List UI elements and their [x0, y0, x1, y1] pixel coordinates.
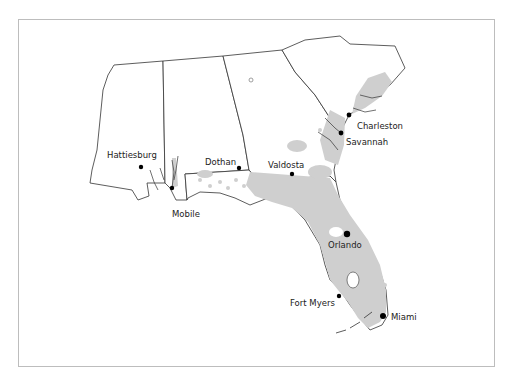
city-dot-hattiesburg — [139, 165, 143, 169]
city-label-mobile: Mobile — [172, 209, 200, 219]
city-label-fort-myers: Fort Myers — [290, 298, 335, 308]
isolated-record-marker — [249, 78, 253, 82]
range-gap — [329, 227, 343, 237]
city-dot-mobile — [170, 186, 174, 190]
city-label-savannah: Savannah — [346, 137, 388, 147]
range-patch — [197, 170, 213, 178]
lake-okeechobee — [347, 272, 359, 288]
city-dot-orlando — [344, 231, 350, 237]
city-dot-fort-myers — [337, 294, 341, 298]
city-dot-miami — [380, 313, 386, 319]
city-dot-charleston — [347, 113, 352, 118]
city-label-miami: Miami — [391, 312, 417, 322]
state-mississippi — [90, 61, 165, 200]
city-label-hattiesburg: Hattiesburg — [107, 150, 157, 160]
city-label-dothan: Dothan — [205, 157, 236, 167]
city-label-orlando: Orlando — [328, 240, 362, 250]
range-patch — [287, 140, 307, 152]
southeast-us-map — [0, 0, 513, 381]
city-dot-savannah — [339, 131, 344, 136]
range-patch — [308, 165, 332, 179]
city-dot-dothan — [237, 166, 241, 170]
city-label-valdosta: Valdosta — [268, 160, 304, 170]
city-dot-valdosta — [290, 172, 294, 176]
city-label-charleston: Charleston — [357, 121, 403, 131]
